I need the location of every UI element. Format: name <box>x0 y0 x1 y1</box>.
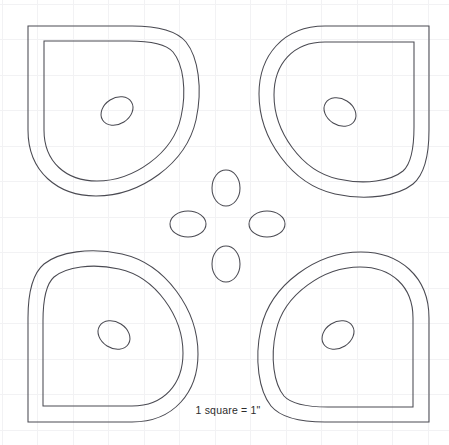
pattern-sheet: 1 square = 1" <box>0 0 449 445</box>
scale-caption: 1 square = 1" <box>196 404 261 416</box>
sheet-background <box>0 0 449 445</box>
pattern-drawing: 1 square = 1" <box>0 0 449 445</box>
